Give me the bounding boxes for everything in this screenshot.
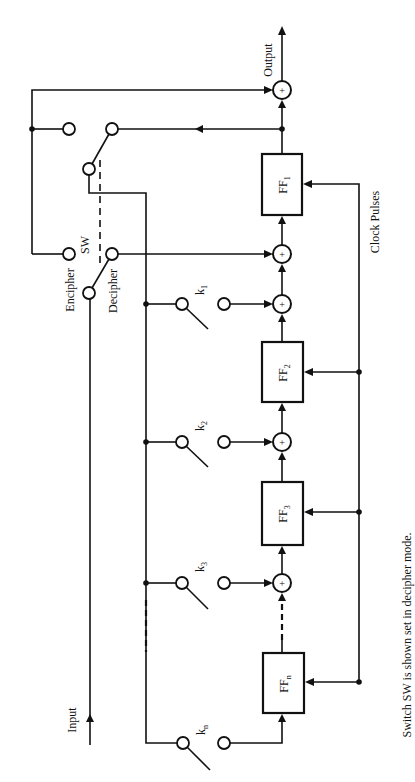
encipher-label: Encipher [63,268,77,311]
encipher-terminal [63,248,75,260]
decipher-label: Decipher [106,269,120,313]
input-label: Input [65,707,79,733]
key-label: k2 [193,421,209,431]
output-path: Output [261,26,286,81]
switch-blade [186,446,208,467]
clock-pulses-label: Clock Pulses [368,191,382,254]
shift-register-cipher-diagram: Output + Encipher SW Decipher [0,0,415,782]
output-label: Output [261,43,275,77]
switch-label: SW [78,235,92,254]
xor-k1: + [273,295,291,313]
arrow-icon [264,579,273,587]
arrow-icon [304,368,313,376]
key-label: k1 [193,285,209,295]
xor-output: + [273,81,291,99]
xor-k3: + [273,574,291,592]
arrow-icon [264,300,273,308]
input-line: Input [65,299,94,745]
arrow-icon [278,216,286,224]
clock-bus: Clock Pulses [303,180,382,686]
svg-text:+: + [279,578,285,589]
switch-blade [92,134,109,164]
xor-plus-icon: + [279,85,285,96]
arrow-icon [278,264,286,272]
flip-flop-ff1: FF1 [262,154,302,215]
key-switch-k3[interactable]: k3 [143,562,273,609]
arrow-icon [278,100,286,108]
switch-terminal [106,123,118,135]
arrow-icon [278,714,286,722]
arrow-icon [278,593,286,601]
arrow-icon [264,438,273,446]
svg-text:+: + [279,437,285,448]
arrow-icon [304,508,313,516]
arrow-icon [278,452,286,460]
key-switch-k2[interactable]: k2 [143,421,273,467]
key-label: k3 [193,562,209,572]
key-switch-k1[interactable]: k1 [143,285,273,329]
switch-pivot [83,163,95,175]
output-arrow-icon [278,26,286,35]
switch-blade [186,587,208,609]
key-label: kn [194,725,210,735]
arrow-icon [305,678,314,686]
footnote: Switch SW is shown set in decipher mode. [400,532,414,737]
arrow-icon [278,403,286,411]
input-arrow-icon [86,714,94,722]
arrow-icon [303,180,312,188]
svg-text:+: + [279,249,285,260]
switch-blade [187,747,210,770]
arrow-icon [278,314,286,322]
decipher-terminal [106,248,118,260]
arrow-icon [264,250,273,258]
xor-k2: + [273,433,291,451]
flip-flop-ff3: FF3 [262,482,303,545]
switch-blade [186,308,208,329]
key-switch-kn[interactable]: kn [177,714,286,770]
flip-flop-ff2: FF2 [262,342,303,402]
xor-decipher: + [273,245,291,263]
svg-text:+: + [279,299,285,310]
arrow-icon [278,546,286,554]
switch-terminal [63,123,75,135]
switch-pivot [83,287,95,299]
flip-flop-ffn: FFn [263,653,304,713]
arrow-icon [264,86,273,94]
switch-sw-upper[interactable] [29,123,146,650]
encipher-feedback-line [32,86,273,254]
arrow-left-icon [195,125,203,133]
